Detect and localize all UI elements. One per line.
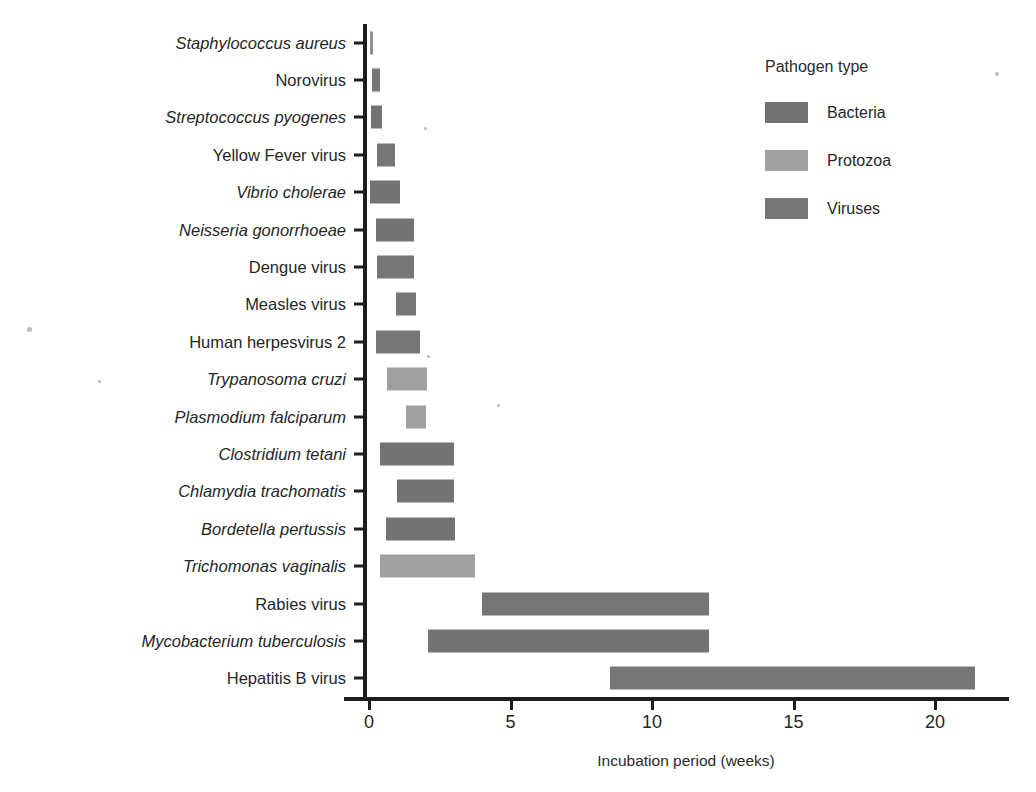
scan-speck [424, 127, 427, 130]
x-axis-tick-mark [934, 699, 937, 710]
scan-speck [27, 327, 32, 332]
scan-speck [497, 404, 500, 407]
scan-speck [995, 72, 999, 76]
scan-speck [98, 380, 101, 383]
x-axis-tick-label: 15 [764, 712, 824, 733]
legend-items: BacteriaProtozoaViruses [765, 102, 995, 219]
legend-swatch [765, 198, 808, 219]
legend-item[interactable]: Protozoa [765, 150, 995, 171]
legend-swatch [765, 102, 808, 123]
x-axis-tick-label: 0 [339, 712, 399, 733]
scan-speck [427, 355, 430, 358]
legend-swatch [765, 150, 808, 171]
x-axis-tick-mark [651, 699, 654, 710]
x-axis-tick-label: 20 [905, 712, 965, 733]
legend-item[interactable]: Viruses [765, 198, 995, 219]
legend-label: Bacteria [827, 104, 886, 122]
x-axis-title: Incubation period (weeks) [363, 752, 1009, 770]
x-axis-tick-mark [368, 699, 371, 710]
x-axis-tick-mark [510, 699, 513, 710]
legend-title: Pathogen type [765, 58, 995, 76]
x-axis-tick-label: 10 [622, 712, 682, 733]
legend-label: Viruses [827, 200, 880, 218]
legend-item[interactable]: Bacteria [765, 102, 995, 123]
incubation-period-chart: Pathogen Staphylococcus aureusNorovirusS… [0, 0, 1036, 792]
legend-label: Protozoa [827, 152, 891, 170]
x-axis-tick-mark [793, 699, 796, 710]
legend: Pathogen type BacteriaProtozoaViruses [765, 58, 995, 246]
x-axis-tick-label: 5 [481, 712, 541, 733]
